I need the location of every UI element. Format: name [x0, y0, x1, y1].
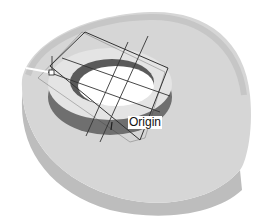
handle-point[interactable]: [49, 70, 54, 75]
origin-label: Origin: [128, 116, 162, 129]
cad-viewport: [0, 0, 276, 219]
